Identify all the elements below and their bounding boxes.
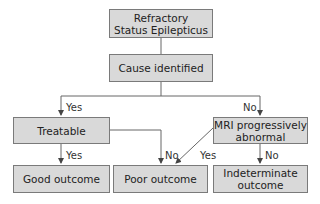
node-refractory-status-epilepticus: Refractory Status Epilepticus — [109, 9, 213, 38]
edge-label-treatable-yes: Yes — [66, 150, 82, 161]
edge-label-mri-no: No — [265, 150, 279, 161]
edge-label-cause-yes: Yes — [66, 102, 82, 113]
edge-label-cause-no: No — [243, 102, 257, 113]
node-treatable: Treatable — [13, 117, 110, 144]
edge-label-treatable-no: No — [165, 150, 179, 161]
node-indeterminate-outcome: Indeterminate outcome — [213, 165, 308, 193]
node-mri-progressively-abnormal: MRI progressively abnormal — [213, 117, 308, 144]
node-poor-outcome: Poor outcome — [113, 165, 208, 193]
edge-label-mri-yes: Yes — [200, 150, 216, 161]
node-good-outcome: Good outcome — [13, 165, 110, 193]
node-cause-identified: Cause identified — [109, 54, 213, 82]
